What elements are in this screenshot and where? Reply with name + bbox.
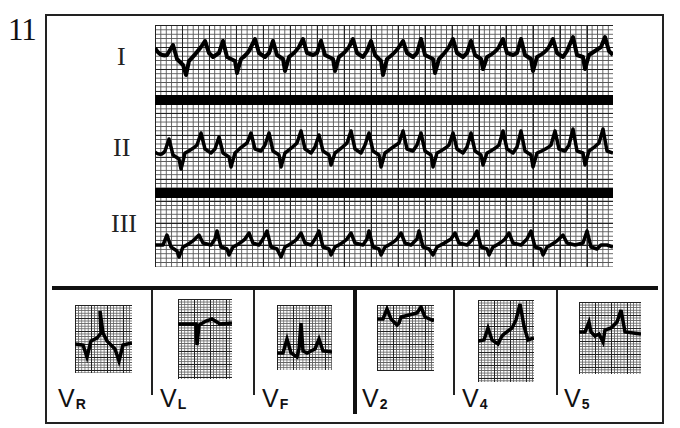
ecg-panel-vl — [178, 299, 232, 379]
lead-label-v2: V2 — [362, 384, 387, 413]
lead-label-i: I — [117, 42, 126, 72]
panel-divider — [151, 290, 153, 395]
lead-label-v4: V4 — [462, 384, 487, 413]
ecg-panel-v4 — [478, 300, 534, 382]
ecg-trace-v2 — [377, 305, 434, 371]
ecg-panel-v5 — [579, 302, 641, 374]
panel-divider — [556, 290, 558, 395]
lead-label-ii: II — [113, 133, 130, 163]
ecg-trace-leads-i-ii-iii — [155, 25, 613, 267]
panel-divider — [253, 290, 255, 395]
figure-number: 11 — [8, 12, 36, 48]
lead-label-vf: VF — [262, 384, 288, 413]
ecg-trace-v4 — [478, 300, 534, 382]
ecg-panel-vr — [75, 305, 132, 373]
ecg-trace-v5 — [579, 302, 641, 374]
limb-lead-strip — [155, 25, 613, 267]
ecg-panel-vf — [277, 305, 332, 370]
lead-label-vl: VL — [160, 384, 186, 413]
ecg-trace-vr — [75, 305, 132, 373]
lead-label-iii: III — [111, 209, 137, 239]
ecg-panel-v2 — [377, 305, 434, 371]
panel-divider — [453, 290, 455, 395]
ecg-trace-vf — [277, 305, 332, 370]
panel-divider-thick — [353, 290, 357, 414]
lead-label-vr: VR — [58, 384, 86, 413]
lead-label-v5: V5 — [564, 384, 589, 413]
ecg-trace-vl — [178, 299, 232, 379]
